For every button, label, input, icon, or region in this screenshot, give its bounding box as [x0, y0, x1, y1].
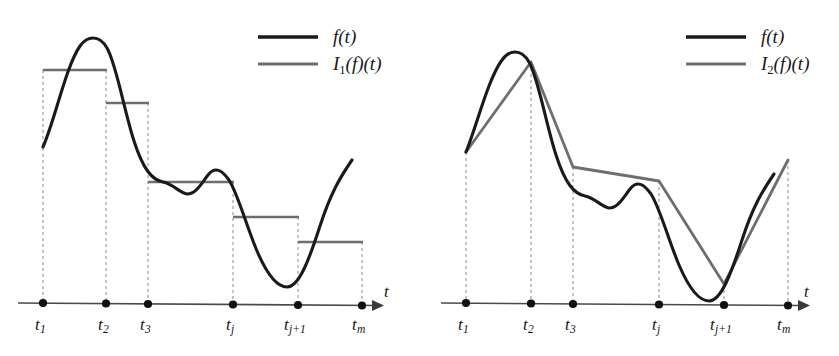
- f-curve: [43, 38, 352, 287]
- legend-label-f: f(t): [333, 27, 356, 46]
- tick-label-t1: t1: [35, 316, 46, 336]
- node-dot-t2: [527, 299, 535, 307]
- tick-label-t2: t2: [98, 316, 109, 336]
- dashed-guides: [43, 70, 362, 303]
- node-dot-tm: [358, 301, 366, 309]
- node-dot-tj: [229, 300, 237, 308]
- tick-label-tm: tm: [777, 316, 790, 336]
- node-dot-tj: [655, 300, 663, 308]
- node-dot-tj1: [294, 301, 302, 309]
- tick-label-t2: t2: [523, 316, 534, 336]
- node-dot-tj1: [720, 301, 728, 309]
- node-dot-t1: [462, 299, 470, 307]
- legend-label-interpolant: I2(f)(t): [761, 54, 809, 76]
- legend-swatches: [258, 37, 318, 64]
- tick-label-tj1: tj+1: [284, 316, 306, 336]
- tick-label-t1: t1: [458, 316, 469, 336]
- node-dot-t3: [144, 300, 152, 308]
- figure-root: f(t) I1(f)(t) t t1 t2 t3 tj tj+1 tm: [0, 0, 839, 356]
- t-axis-arrowhead: [372, 300, 384, 311]
- panel-piecewise-linear: f(t) I2(f)(t) t t1 t2 t3 tj tj+1 tm: [420, 0, 839, 356]
- node-dot-t1: [39, 299, 47, 307]
- axis-variable-t: t: [384, 282, 389, 302]
- tick-label-tj: tj: [226, 316, 234, 336]
- legend-swatches: [686, 37, 746, 64]
- t-axis-line: [441, 303, 804, 306]
- interpolant-steps: [43, 70, 363, 242]
- tick-label-t3: t3: [565, 316, 576, 336]
- tick-label-tm: tm: [352, 316, 365, 336]
- node-dot-t2: [102, 299, 110, 307]
- tick-label-tj: tj: [652, 316, 660, 336]
- dashed-guides: [466, 62, 788, 305]
- panel-piecewise-constant: f(t) I1(f)(t) t t1 t2 t3 tj tj+1 tm: [0, 0, 420, 356]
- node-dot-tm: [784, 301, 792, 309]
- axis-variable-t: t: [804, 282, 809, 302]
- legend-label-interpolant: I1(f)(t): [333, 54, 381, 76]
- t-axis-line: [18, 303, 378, 306]
- node-dot-t3: [569, 300, 577, 308]
- tick-label-t3: t3: [140, 316, 151, 336]
- tick-label-tj1: tj+1: [710, 316, 732, 336]
- legend-label-f: f(t): [761, 27, 784, 46]
